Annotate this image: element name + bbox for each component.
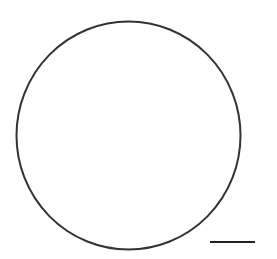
diagram-canvas [0,0,277,259]
circle-outline [17,22,241,250]
